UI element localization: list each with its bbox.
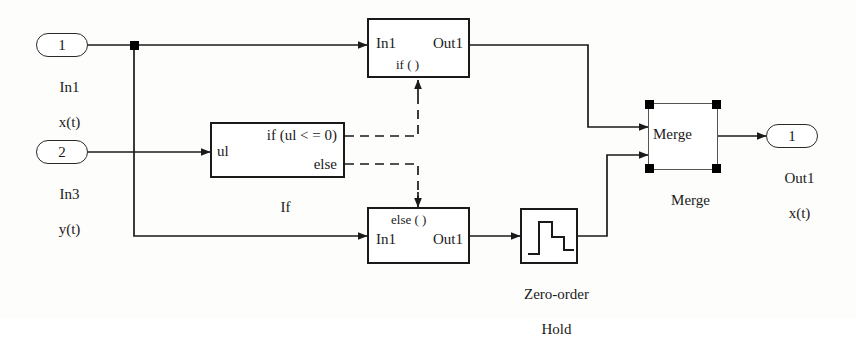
if-block-condition-label: if (ul < = 0) <box>267 128 337 143</box>
if-block-else-label: else <box>314 157 337 172</box>
zoh-label-line2: Hold <box>542 321 572 337</box>
signal-junction-dot-icon <box>130 41 139 50</box>
if-action-inport-label: In1 <box>376 36 396 51</box>
inport-1-number: 1 <box>58 38 66 53</box>
outport-1-name: Out1 <box>785 170 815 186</box>
if-action-subsystem-block[interactable]: In1 Out1 if ( ) <box>367 18 470 78</box>
if-block-name: If <box>281 199 291 215</box>
staircase-icon <box>522 210 580 266</box>
zoh-label-line1: Zero-order <box>524 286 589 302</box>
merge-block[interactable]: Merge <box>648 103 718 170</box>
outport-1[interactable]: 1 <box>766 124 818 148</box>
inport-2-name: In3 <box>60 186 80 202</box>
inport-1-signal: x(t) <box>59 114 81 130</box>
zero-order-hold-block[interactable] <box>520 208 578 264</box>
outport-1-signal: x(t) <box>789 205 811 221</box>
zero-order-hold-caption: Zero-order Hold <box>479 268 619 338</box>
if-block[interactable]: ul if (ul < = 0) else <box>210 122 345 178</box>
outport-1-number: 1 <box>788 129 796 144</box>
inport-2-caption: In3 y(t) <box>14 168 110 256</box>
if-block-caption: If <box>232 181 324 234</box>
outport-1-caption: Out1 x(t) <box>744 152 840 240</box>
inport-2-number: 2 <box>58 145 66 160</box>
selection-handle-top-right[interactable] <box>712 100 721 109</box>
control-line-if <box>345 84 418 136</box>
if-action-outport-label: Out1 <box>433 36 463 51</box>
else-action-subsystem-block[interactable]: else ( ) In1 Out1 <box>367 207 470 264</box>
inport-1-name: In1 <box>60 79 80 95</box>
selection-handle-bottom-left[interactable] <box>645 164 654 173</box>
inport-2-signal: y(t) <box>59 221 81 237</box>
if-action-tag-label: if ( ) <box>396 58 419 71</box>
inport-2[interactable]: 2 <box>36 140 88 164</box>
else-action-outport-label: Out1 <box>433 232 463 247</box>
merge-block-caption: Merge <box>637 174 729 227</box>
else-action-inport-label: In1 <box>376 232 396 247</box>
selection-handle-bottom-right[interactable] <box>712 164 721 173</box>
wire-if-action-to-merge <box>470 45 648 127</box>
merge-block-text: Merge <box>653 127 692 142</box>
else-action-tag-label: else ( ) <box>391 213 426 226</box>
inport-1[interactable]: 1 <box>36 33 88 57</box>
selection-handle-top-left[interactable] <box>645 100 654 109</box>
if-block-input-label: ul <box>217 144 229 159</box>
inport-1-caption: In1 x(t) <box>14 61 110 149</box>
merge-block-label: Merge <box>671 192 710 208</box>
control-line-else <box>345 164 418 201</box>
